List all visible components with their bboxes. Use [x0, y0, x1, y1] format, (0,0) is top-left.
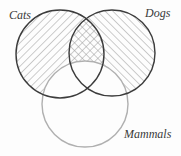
venn-svg: Cats Dogs Mammals	[0, 0, 181, 156]
dogs-label: Dogs	[144, 6, 171, 20]
mammals-label: Mammals	[123, 127, 172, 141]
venn-diagram: Cats Dogs Mammals	[0, 0, 181, 156]
cats-label: Cats	[9, 8, 31, 22]
